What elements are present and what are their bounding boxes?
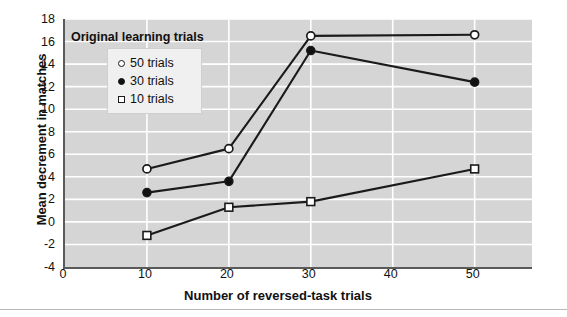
- data-point-filled-circle: [307, 46, 315, 54]
- x-tick-label: 0: [43, 268, 83, 281]
- y-tick-label: 18: [15, 13, 55, 26]
- legend-item-label: 30 trials: [130, 74, 174, 88]
- x-tick-label: 20: [207, 268, 247, 281]
- y-tick-label: 10: [15, 103, 55, 116]
- legend-box: 50 trials 30 trials 10 trials: [107, 48, 202, 114]
- legend-item-label: 50 trials: [130, 56, 174, 70]
- legend-item-30-trials: 30 trials: [115, 72, 194, 90]
- x-axis-title: Number of reversed-task trials: [63, 288, 493, 303]
- y-tick-label: 14: [15, 58, 55, 71]
- data-point-filled-circle: [143, 189, 151, 197]
- x-axis-tick-labels: 01020304050: [0, 268, 567, 288]
- data-point-filled-circle: [225, 177, 233, 185]
- x-tick-label: 10: [125, 268, 165, 281]
- legend-title: Original learning trials: [71, 30, 204, 44]
- x-tick-label: 50: [453, 268, 493, 281]
- y-tick-label: 8: [15, 125, 55, 138]
- data-point-open-square: [307, 198, 315, 206]
- legend-item-10-trials: 10 trials: [115, 90, 194, 108]
- y-tick-label: -2: [15, 238, 55, 251]
- y-tick-label: 4: [15, 171, 55, 184]
- data-point-open-square: [225, 203, 233, 211]
- x-tick-label: 40: [371, 268, 411, 281]
- y-tick-label: 6: [15, 148, 55, 161]
- bottom-divider: [0, 309, 567, 310]
- data-point-open-square: [143, 232, 151, 240]
- y-tick-label: 12: [15, 80, 55, 93]
- data-point-filled-circle: [471, 78, 479, 86]
- open-square-marker-icon: [115, 96, 128, 103]
- legend-item-label: 10 trials: [130, 92, 174, 106]
- data-point-open-square: [471, 165, 479, 173]
- y-tick-label: 0: [15, 216, 55, 229]
- data-point-open-circle: [307, 32, 315, 40]
- data-point-open-circle: [471, 31, 479, 39]
- data-point-open-circle: [143, 165, 151, 173]
- open-circle-marker-icon: [115, 60, 128, 67]
- data-point-open-circle: [225, 145, 233, 153]
- chart-figure: Mean decrement in matches 18161412108642…: [0, 0, 567, 317]
- filled-circle-marker-icon: [115, 78, 128, 85]
- legend-item-50-trials: 50 trials: [115, 54, 194, 72]
- y-tick-label: 2: [15, 193, 55, 206]
- y-tick-label: 16: [15, 35, 55, 48]
- x-tick-label: 30: [289, 268, 329, 281]
